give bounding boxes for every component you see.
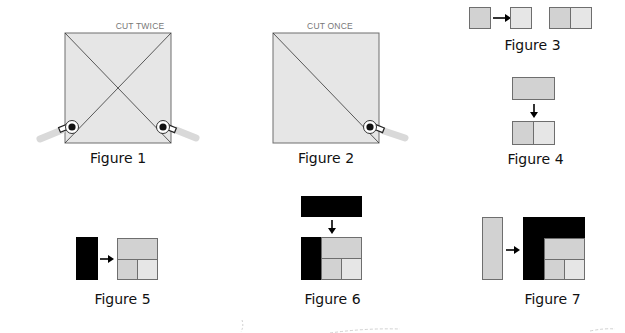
decorative-dashed-edge xyxy=(0,0,625,333)
